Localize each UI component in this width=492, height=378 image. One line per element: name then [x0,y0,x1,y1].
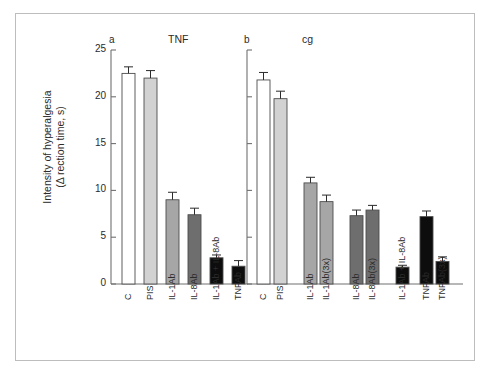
y-tick-label: 10 [84,183,106,194]
bar [257,80,270,284]
x-tick-label: TNFAb [421,272,431,300]
x-tick-label: IL-1Ab + IL-8Ab [397,237,407,300]
x-tick-label: IL-1Ab [167,273,177,300]
bar-group [274,91,287,284]
x-tick-label: IL-8Ab [189,273,199,300]
x-tick-label: IL-1Ab + IL-8Ab [211,237,221,300]
x-tick-label: IL-8Ab(3x) [367,258,377,300]
figure-frame: Intensity of hyperalgesia (Δ rection tim… [15,13,475,361]
x-tick-label: IL-1Ab [305,273,315,300]
x-tick-label: C [123,294,133,301]
x-tick-label: IL-8Ab [351,273,361,300]
x-tick-label: TNFAb [233,272,243,300]
bar-group [166,192,179,284]
bar-group [144,71,157,284]
x-tick-label: C [258,294,268,301]
x-tick-label: IL-1Ab(3x) [321,258,331,300]
bar [144,78,157,284]
y-tick-label: 0 [84,277,106,288]
x-tick-label: PIS [275,285,285,300]
x-tick-label: PIS [145,285,155,300]
bar [166,200,179,284]
x-tick-label: TNFAb(3x) [437,256,447,300]
bar-group [122,67,135,284]
bar-group [304,177,317,284]
bar [122,73,135,284]
y-tick-label: 5 [84,230,106,241]
y-tick-label: 20 [84,90,106,101]
figure-canvas: Intensity of hyperalgesia (Δ rection tim… [0,0,492,378]
bar [304,183,317,284]
y-tick-label: 25 [84,43,106,54]
bar-group [257,72,270,284]
bar [274,99,287,284]
y-tick-label: 15 [84,137,106,148]
